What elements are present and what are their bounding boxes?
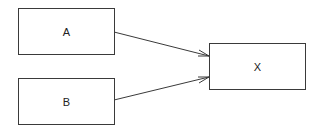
- node-a-label: A: [63, 26, 70, 38]
- edge-a-to-x: [114, 32, 209, 56]
- node-x: X: [209, 43, 306, 90]
- edge-b-to-x: [114, 77, 209, 100]
- node-x-label: X: [254, 61, 261, 73]
- node-a: A: [18, 8, 115, 55]
- node-b: B: [18, 78, 115, 125]
- node-b-label: B: [63, 96, 70, 108]
